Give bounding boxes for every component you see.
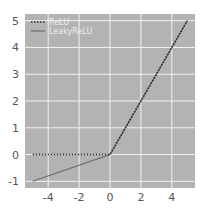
- y-tick-label: 1: [12, 122, 19, 135]
- y-tick-label: -1: [8, 175, 19, 188]
- chart: -4-2024 -1012345 ReLULeakyReLU: [0, 0, 205, 214]
- x-axis-ticks: -4-2024: [43, 191, 176, 204]
- x-tick-label: -2: [74, 191, 85, 204]
- legend-label-relu: ReLU: [49, 18, 69, 27]
- x-tick-label: 0: [107, 191, 114, 204]
- y-tick-label: 4: [12, 41, 19, 54]
- x-tick-label: 4: [168, 191, 175, 204]
- legend-label-leakyrelu: LeakyReLU: [49, 27, 92, 36]
- y-axis-ticks: -1012345: [8, 15, 19, 189]
- x-tick-label: 2: [137, 191, 144, 204]
- x-tick-label: -4: [43, 191, 54, 204]
- y-tick-label: 0: [12, 149, 19, 162]
- y-tick-label: 5: [12, 15, 19, 28]
- y-tick-label: 3: [12, 68, 19, 81]
- y-tick-label: 2: [12, 95, 19, 108]
